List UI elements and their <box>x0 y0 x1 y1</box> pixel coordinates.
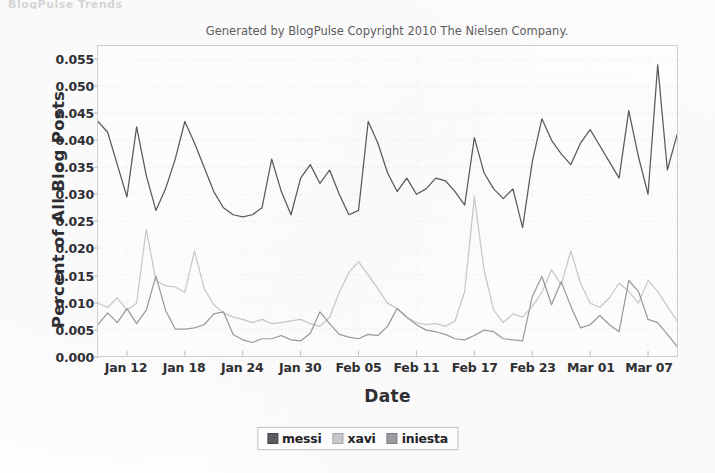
y-tick-label: 0.035 <box>38 160 94 175</box>
x-axis-title: Date <box>97 386 678 406</box>
y-tick-label: 0.020 <box>38 241 94 256</box>
x-tick-label: Jan 12 <box>105 360 148 375</box>
chart-page: BlogPulse Trends Generated by BlogPulse … <box>0 0 715 473</box>
x-tick-label: Feb 17 <box>452 360 498 375</box>
x-tick-label: Feb 05 <box>335 360 381 375</box>
y-axis-tick-labels: 0.0000.0050.0100.0150.0200.0250.0300.035… <box>36 45 94 357</box>
legend-item-iniesta[interactable]: iniesta <box>387 431 448 446</box>
x-tick-label: Jan 24 <box>221 360 264 375</box>
y-tick-label: 0.040 <box>38 132 94 147</box>
legend-item-messi[interactable]: messi <box>267 431 322 446</box>
y-tick-label: 0.025 <box>38 214 94 229</box>
y-tick-label: 0.000 <box>38 350 94 365</box>
y-tick-label: 0.005 <box>38 322 94 337</box>
legend-swatch-messi <box>267 433 278 444</box>
plot-svg <box>98 46 677 356</box>
legend-item-xavi[interactable]: xavi <box>333 431 376 446</box>
chart-legend: messixaviiniesta <box>257 427 458 450</box>
series-line-xavi <box>98 197 677 326</box>
y-tick-label: 0.050 <box>38 78 94 93</box>
y-tick-label: 0.045 <box>38 105 94 120</box>
y-tick-label: 0.015 <box>38 268 94 283</box>
x-tick-label: Feb 23 <box>510 360 556 375</box>
series-line-iniesta <box>98 276 677 346</box>
y-tick-label: 0.010 <box>38 295 94 310</box>
cropped-header-text: BlogPulse Trends <box>8 0 228 9</box>
legend-label-messi: messi <box>282 431 322 446</box>
x-tick-label: Jan 18 <box>163 360 206 375</box>
y-tick-label: 0.030 <box>38 187 94 202</box>
gridlines <box>98 46 677 356</box>
plot-area <box>97 45 678 357</box>
legend-swatch-xavi <box>333 433 344 444</box>
legend-label-xavi: xavi <box>348 431 376 446</box>
legend-swatch-iniesta <box>387 433 398 444</box>
y-tick-label: 0.055 <box>38 51 94 66</box>
x-tick-label: Mar 01 <box>567 360 615 375</box>
x-axis-tick-labels: Jan 12Jan 18Jan 24Jan 30Feb 05Feb 11Feb … <box>97 360 678 382</box>
x-tick-label: Feb 11 <box>394 360 440 375</box>
x-tick-label: Jan 30 <box>279 360 322 375</box>
chart-subtitle: Generated by BlogPulse Copyright 2010 Th… <box>97 24 677 38</box>
legend-label-iniesta: iniesta <box>402 431 448 446</box>
x-tick-label: Mar 07 <box>625 360 673 375</box>
